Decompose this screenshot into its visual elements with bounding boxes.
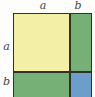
- vertical-divider-line: [69, 13, 70, 97]
- label-top-a: a: [36, 0, 50, 11]
- label-left-b: b: [0, 76, 13, 87]
- ab-region-right: [70, 13, 92, 72]
- a-squared-region: [13, 13, 70, 72]
- horizontal-divider-line: [13, 71, 92, 72]
- binomial-square-figure: a b a b: [0, 0, 95, 97]
- ab-region-bottom: [13, 72, 70, 97]
- label-top-b: b: [71, 0, 85, 11]
- square-area: [13, 13, 92, 97]
- label-left-a: a: [0, 41, 13, 52]
- b-squared-region: [70, 72, 92, 97]
